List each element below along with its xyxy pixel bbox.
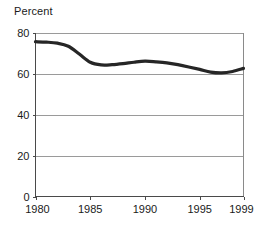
x-tick-label-1995: 1995 (187, 203, 211, 215)
y-tick-label-40: 40 (17, 109, 29, 121)
y-tick-label-0: 0 (23, 191, 29, 203)
tick-marks-group (33, 34, 245, 200)
x-tick-label-1990: 1990 (133, 203, 157, 215)
x-tick-label-1980: 1980 (25, 203, 49, 215)
y-tick-label-20: 20 (17, 150, 29, 162)
x-tick-label-1999: 1999 (229, 203, 253, 215)
y-tick-label-80: 80 (17, 27, 29, 39)
data-line-percent (36, 42, 244, 73)
y-axis-tick-labels: 020406080 (17, 27, 29, 203)
axis-group (36, 33, 244, 197)
x-axis-tick-labels: 19801985199019951999 (25, 203, 253, 215)
chart-plot-svg: 020406080 19801985199019951999 (0, 0, 266, 230)
chart-figure: Percent 020406080 19801985199019951999 (0, 0, 266, 230)
y-tick-label-60: 60 (17, 68, 29, 80)
gridlines-group (36, 34, 244, 157)
data-series-group (36, 42, 244, 73)
x-tick-label-1985: 1985 (78, 203, 102, 215)
